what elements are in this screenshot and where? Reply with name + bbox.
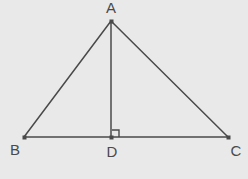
vertex-label-c: C <box>231 142 242 159</box>
vertex-dot-a <box>110 20 114 24</box>
side-ac-line <box>111 21 228 137</box>
vertex-label-d: D <box>107 143 118 160</box>
vertex-label-b: B <box>10 141 20 158</box>
triangle-diagram-canvas: A B D C <box>0 0 248 179</box>
geometry-figure: A B D C <box>0 0 248 179</box>
vertex-label-a: A <box>106 0 116 16</box>
vertex-dot-d <box>110 136 114 140</box>
side-ab-line <box>24 21 111 137</box>
vertex-dot-c <box>227 136 231 140</box>
vertex-dot-b <box>23 136 27 140</box>
